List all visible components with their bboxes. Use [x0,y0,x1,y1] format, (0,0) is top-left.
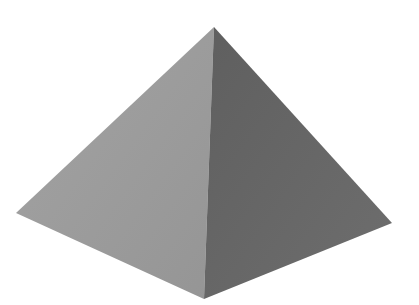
image-canvas: Gray 3D square pyramid on white backgrou… [0,0,419,305]
pyramid-illustration [0,0,419,305]
pyramid-left-face [16,27,214,299]
pyramid-right-face [204,27,392,299]
